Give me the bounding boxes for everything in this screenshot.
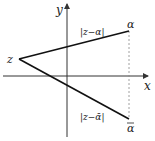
point-alpha-label: α [127,18,135,31]
point-z-label: z [6,53,13,66]
x-axis-label: x [144,79,151,93]
lower-segment-label: |z−ᾱ| [80,112,104,123]
segment-z-to-alpha [19,31,129,59]
upper-segment-label: |z−α| [80,27,104,38]
complex-plane-diagram: x y z α α |z−α| |z−ᾱ| [0,0,155,141]
y-axis-label: y [55,3,63,17]
segment-z-to-alpha-conjugate [19,59,129,119]
point-alpha-conjugate-label: α [127,122,135,135]
